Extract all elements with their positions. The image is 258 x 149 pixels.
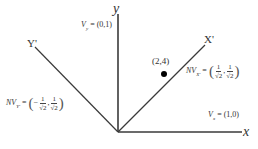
vx-value: = (1,0)	[217, 110, 239, 119]
nvy-name: NV	[6, 98, 16, 107]
nvy-eq: =	[22, 98, 27, 107]
nvy-sub: Y'	[16, 104, 20, 109]
x-prime-axis-label: X'	[204, 34, 214, 45]
vx-label: Vx = (1,0)	[208, 111, 239, 121]
coordinate-rotation-diagram: y x X' Y' Vy = (0,1) Vx = (1,0) (2,4) NV…	[0, 0, 258, 149]
nvy-frac-1: 1√2	[39, 95, 46, 112]
point-marker	[161, 71, 167, 77]
nvx-name: NV	[186, 66, 196, 75]
nvx-frac-1: 1√2	[215, 63, 222, 80]
vy-label: Vy = (0,1)	[81, 21, 112, 31]
x-axis-label: x	[243, 125, 249, 139]
y-axis-label: y	[113, 2, 119, 16]
nvy-frac-2: 1√2	[50, 95, 57, 112]
vy-value: = (0,1)	[90, 20, 112, 29]
y-prime-axis	[35, 47, 118, 132]
nvx-label: NVX' = (1√2,1√2)	[186, 63, 240, 80]
nvx-frac-2: 1√2	[226, 63, 233, 80]
nvy-label: NVY' = (−1√2,1√2)	[6, 95, 64, 112]
vy-sub: y	[86, 26, 88, 31]
point-label: (2,4)	[152, 57, 169, 66]
nvx-sub: X'	[196, 72, 200, 77]
nvx-eq: =	[202, 66, 207, 75]
vx-sub: x	[213, 116, 215, 121]
y-prime-axis-label: Y'	[27, 38, 37, 49]
